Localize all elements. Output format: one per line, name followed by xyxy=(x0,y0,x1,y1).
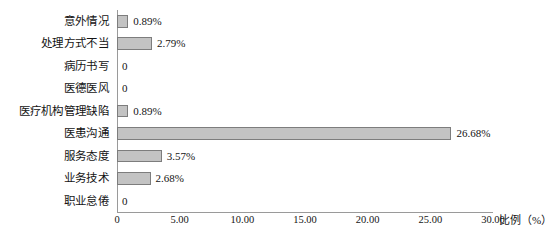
category-label: 业务技术 xyxy=(64,167,109,189)
category-axis-labels: 意外情况处理方式不当病历书写医德医风医疗机构管理缺陷医患沟通服务态度业务技术职业… xyxy=(0,10,113,212)
bar-row: 0.89% xyxy=(117,100,493,122)
bar-value-label: 0.89% xyxy=(133,103,161,119)
category-label: 意外情况 xyxy=(64,10,109,32)
bar xyxy=(117,37,152,50)
bar-value-label: 0 xyxy=(122,58,128,74)
category-label: 病历书写 xyxy=(64,55,109,77)
bar xyxy=(117,15,128,28)
bar-row: 2.79% xyxy=(117,32,493,54)
plot-area: 0.89%2.79%000.89%26.68%3.57%2.68%0 xyxy=(117,10,493,212)
x-tick-label: 25.00 xyxy=(419,213,443,227)
bar-row: 0 xyxy=(117,55,493,77)
category-label: 服务态度 xyxy=(64,145,109,167)
bar-value-label: 2.79% xyxy=(157,35,185,51)
bar-value-label: 3.57% xyxy=(167,148,195,164)
bar-row: 0 xyxy=(117,190,493,212)
bar-row: 0 xyxy=(117,77,493,99)
bar-value-label: 2.68% xyxy=(156,170,184,186)
x-tick-label: 0 xyxy=(114,213,119,227)
bar-row: 0.89% xyxy=(117,10,493,32)
x-tick-label: 20.00 xyxy=(356,213,380,227)
category-label: 职业怠倦 xyxy=(64,190,109,212)
x-tick-label: 5.00 xyxy=(170,213,188,227)
bar-value-label: 0 xyxy=(122,80,128,96)
category-label: 医疗机构管理缺陷 xyxy=(19,100,109,122)
bar-value-label: 26.68% xyxy=(456,125,490,141)
bar xyxy=(117,172,151,185)
category-label: 处理方式不当 xyxy=(41,32,109,54)
bar-row: 26.68% xyxy=(117,122,493,144)
bar xyxy=(117,127,451,140)
bar xyxy=(117,105,128,118)
bar-row: 3.57% xyxy=(117,145,493,167)
bar-value-label: 0 xyxy=(122,193,128,209)
x-tick-label: 10.00 xyxy=(231,213,255,227)
bar-row: 2.68% xyxy=(117,167,493,189)
category-label: 医患沟通 xyxy=(64,122,109,144)
bar xyxy=(117,150,162,163)
category-label: 医德医风 xyxy=(64,77,109,99)
x-axis-title: 比例（%） xyxy=(499,213,549,227)
bar-value-label: 0.89% xyxy=(133,13,161,29)
x-tick-label: 15.00 xyxy=(293,213,317,227)
